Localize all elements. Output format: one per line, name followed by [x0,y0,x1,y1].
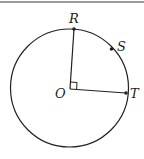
label-o: O [55,86,66,101]
point-r [72,27,76,31]
point-s [110,47,114,51]
radius-or [70,29,74,89]
right-angle-marker [71,82,78,90]
point-t [124,91,128,95]
label-s: S [117,39,126,54]
radius-ot [70,89,126,93]
label-r: R [68,11,79,26]
label-t: T [130,86,140,101]
circle-diagram: R S T O [0,0,144,159]
